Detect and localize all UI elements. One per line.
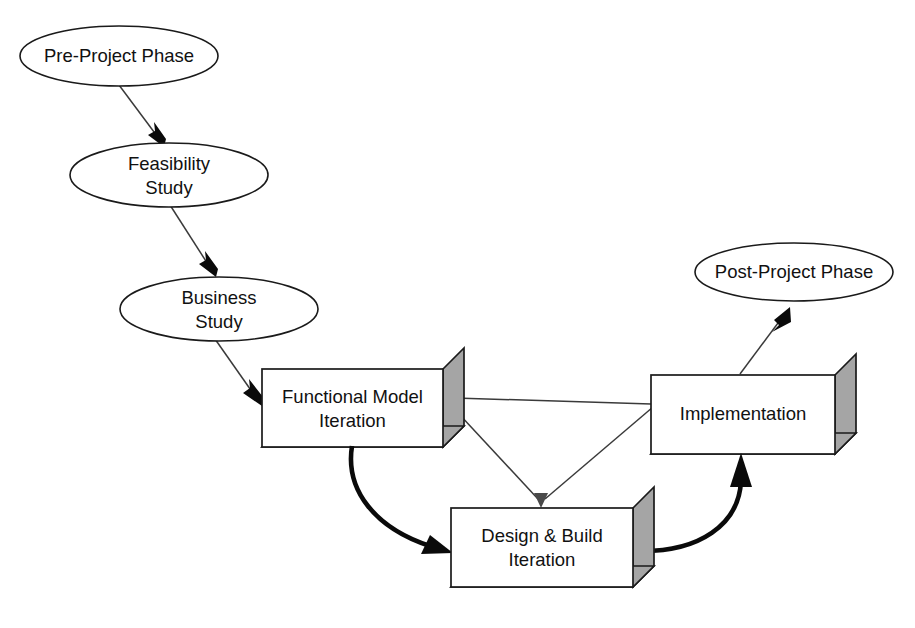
arrowhead bbox=[421, 535, 453, 554]
node-label-line-2: Study bbox=[145, 177, 193, 198]
node-label-line-2: Study bbox=[195, 311, 243, 332]
dsdm-lifecycle-diagram: Functional Model Iteration Implementatio… bbox=[0, 0, 915, 628]
box-front-face bbox=[262, 369, 443, 447]
connector-line bbox=[740, 319, 781, 374]
connector-curve bbox=[351, 446, 430, 546]
node-label-line-1: Pre-Project Phase bbox=[44, 45, 194, 66]
node-label-line-2: Iteration bbox=[509, 549, 576, 570]
node-pre-project-phase[interactable]: Pre-Project Phase bbox=[20, 26, 218, 86]
connector-implementation-to-design-build-thin bbox=[534, 407, 653, 508]
diagram-canvas-container: Functional Model Iteration Implementatio… bbox=[0, 0, 915, 628]
connector-line bbox=[455, 398, 651, 404]
node-label-line-1: Design & Build bbox=[481, 525, 602, 546]
box-front-face bbox=[451, 508, 633, 587]
connector-functional-model-to-design-build bbox=[351, 446, 453, 554]
arrowhead bbox=[534, 493, 548, 508]
connector-pre-project-to-feasibility bbox=[119, 85, 166, 147]
connector-line bbox=[170, 205, 211, 269]
node-functional-model-iteration[interactable]: Functional Model Iteration bbox=[262, 348, 464, 447]
connector-line bbox=[215, 339, 255, 396]
node-design-and-build-iteration[interactable]: Design & Build Iteration bbox=[451, 487, 654, 587]
connector-line bbox=[545, 407, 653, 499]
node-label-line-1: Feasibility bbox=[128, 153, 211, 174]
node-post-project-phase[interactable]: Post-Project Phase bbox=[695, 243, 893, 301]
connector-business-to-functional-model bbox=[215, 339, 263, 406]
connector-feasibility-to-business bbox=[170, 205, 218, 277]
node-label-line-2: Iteration bbox=[319, 410, 386, 431]
node-label-line-1: Implementation bbox=[680, 403, 806, 424]
connector-implementation-to-post-project bbox=[740, 307, 791, 374]
arrowhead bbox=[730, 453, 752, 487]
node-label-line-1: Functional Model bbox=[282, 386, 423, 407]
node-implementation[interactable]: Implementation bbox=[651, 354, 856, 454]
node-label-line-1: Post-Project Phase bbox=[715, 261, 873, 282]
node-feasibility-study[interactable]: Feasibility Study bbox=[70, 143, 268, 207]
connector-implementation-to-functional-model bbox=[444, 392, 651, 404]
node-label-line-1: Business bbox=[181, 287, 256, 308]
node-business-study[interactable]: Business Study bbox=[120, 277, 318, 341]
